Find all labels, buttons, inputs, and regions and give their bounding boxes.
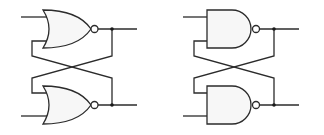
bottom-nor-gate <box>43 86 98 124</box>
junction-dot <box>110 103 114 107</box>
nand-latch <box>183 10 299 124</box>
top-nor-gate <box>43 10 98 48</box>
bottom-nand-gate <box>207 86 260 124</box>
latch-diagram <box>0 0 324 135</box>
inversion-bubble <box>91 26 98 33</box>
nor-latch <box>21 10 137 124</box>
junction-dot <box>110 27 114 31</box>
inversion-bubble <box>253 102 260 109</box>
inversion-bubble <box>91 102 98 109</box>
junction-dot <box>272 27 276 31</box>
inversion-bubble <box>253 26 260 33</box>
junction-dot <box>272 103 276 107</box>
top-nand-gate <box>207 10 260 48</box>
